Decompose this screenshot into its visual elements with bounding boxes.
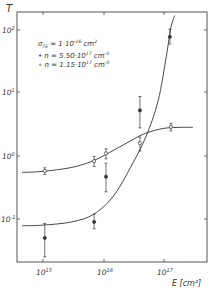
open-circle-marker — [169, 125, 172, 128]
data-point — [169, 123, 172, 131]
ytick-label-100: 102 — [2, 25, 15, 35]
ytick-label-1: 100 — [2, 151, 15, 161]
data-point — [138, 137, 141, 151]
fit-curve-open-series — [22, 127, 193, 172]
open-circle-marker — [104, 152, 107, 155]
legend: σTE = 1·10-16 cm2 • n = 5.50·1017 cm-3 ∘… — [38, 39, 109, 69]
filled-circle-marker — [93, 220, 96, 223]
open-circle-marker — [93, 159, 96, 162]
filled-circle-marker — [138, 109, 141, 112]
data-point — [43, 223, 46, 256]
data-point — [93, 157, 96, 167]
xtick-label-1e16: 1016 — [97, 267, 113, 277]
xtick-label-1e15: 1015 — [36, 267, 52, 277]
sigma-annotation: σTE = 1·10-16 cm2 — [38, 39, 97, 49]
x-axis-label: E [cm²] — [172, 279, 201, 288]
y-axis-label: T — [6, 3, 13, 14]
ytick-label-0-1: 10-1 — [1, 214, 16, 224]
data-point — [104, 163, 107, 192]
open-circle-marker — [43, 169, 46, 172]
filled-circle-marker — [168, 35, 171, 38]
filled-circle-marker — [104, 175, 107, 178]
data-point — [93, 214, 96, 229]
data-point — [138, 96, 141, 127]
legend-open: ∘ n = 1.15·1017 cm-3 — [38, 60, 109, 69]
ytick-label-10: 101 — [2, 87, 15, 97]
open-circle-marker — [138, 142, 141, 145]
filled-circle-marker — [43, 236, 46, 239]
chart: T 102 101 100 10-1 1015 1016 1017 E [cm²… — [0, 0, 210, 288]
xtick-label-1e17: 1017 — [157, 267, 174, 277]
legend-filled: • n = 5.50·1017 cm-3 — [38, 51, 109, 60]
data-point — [43, 168, 46, 175]
data-point — [104, 149, 107, 159]
